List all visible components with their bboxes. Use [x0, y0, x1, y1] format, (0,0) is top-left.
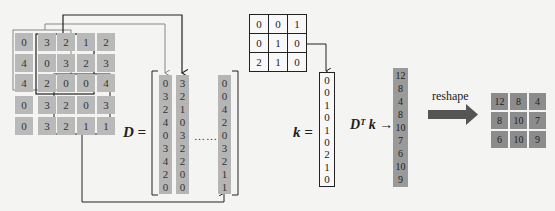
kernel-cell: 1 — [268, 33, 288, 53]
k-value: 2 — [324, 148, 330, 160]
kernel-cell: 1 — [268, 52, 288, 72]
reshape-label: reshape — [432, 89, 469, 104]
k-value: 0 — [324, 136, 330, 148]
input-cell: 4 — [15, 74, 33, 92]
result-value: 10 — [396, 121, 406, 134]
result-value: 4 — [398, 95, 403, 108]
D-value: 0 — [180, 181, 186, 194]
D-value: 1 — [180, 103, 186, 116]
input-cell: 2 — [57, 96, 75, 114]
D-value: 3 — [163, 142, 169, 155]
D-value: 0 — [222, 90, 228, 103]
k-value: 1 — [324, 99, 330, 111]
input-cell: 3 — [57, 54, 75, 72]
input-cell: 2 — [38, 74, 56, 92]
input-cell: 1 — [77, 33, 95, 51]
D-column-last: 0 0 4 2 0 3 2 1 1 — [218, 75, 231, 194]
kernel-cell: 0 — [287, 33, 307, 53]
D-column-2: 3 2 1 0 3 2 2 0 0 — [176, 75, 189, 194]
D-value: 4 — [163, 155, 169, 168]
result-value: 6 — [398, 147, 403, 160]
output-cell: 8 — [491, 112, 508, 129]
input-cell: 3 — [97, 96, 115, 114]
D-value: 2 — [163, 168, 169, 181]
D-label: D = — [123, 124, 146, 141]
input-cell: 0 — [77, 74, 95, 92]
kernel-cell: 0 — [268, 14, 288, 34]
result-value: 7 — [398, 134, 403, 147]
output-cell: 4 — [529, 93, 546, 110]
input-cell: 4 — [97, 74, 115, 92]
D-value: 1 — [222, 181, 228, 194]
kernel-cell: 0 — [249, 33, 269, 53]
reshape-arrow-icon — [428, 104, 478, 125]
input-cell: 0 — [38, 54, 56, 72]
result-vector: 12 8 4 8 10 7 6 10 9 — [393, 68, 408, 187]
D-value: 2 — [222, 116, 228, 129]
D-value: 0 — [222, 77, 228, 90]
result-value: 12 — [396, 69, 406, 82]
input-cell: 4 — [15, 54, 33, 72]
k-value: 1 — [324, 124, 330, 136]
input-cell: 2 — [57, 117, 75, 135]
D-value: 2 — [180, 142, 186, 155]
D-value: 0 — [222, 129, 228, 142]
D-value: 0 — [180, 168, 186, 181]
D-ellipsis: …… — [194, 130, 218, 142]
D-value: 2 — [180, 155, 186, 168]
k-label: k = — [293, 124, 313, 141]
output-cell: 7 — [529, 112, 546, 129]
output-cell: 6 — [491, 131, 508, 148]
input-cell: 0 — [57, 74, 75, 92]
D-value: 2 — [222, 155, 228, 168]
input-cell: 1 — [77, 117, 95, 135]
D-column-1: 0 3 2 4 0 3 4 2 0 — [159, 75, 172, 194]
output-cell: 9 — [529, 131, 546, 148]
result-value: 8 — [398, 108, 403, 121]
input-cell: 0 — [15, 33, 33, 51]
k-value: 1 — [324, 161, 330, 173]
input-cell: 3 — [38, 96, 56, 114]
input-cell: 0 — [15, 117, 33, 135]
input-cell: 3 — [97, 54, 115, 72]
D-value: 1 — [222, 168, 228, 181]
k-value: 0 — [324, 74, 330, 86]
input-cell: 0 — [77, 96, 95, 114]
input-cell: 2 — [57, 33, 75, 51]
D-value: 0 — [163, 181, 169, 194]
D-value: 3 — [180, 129, 186, 142]
output-cell: 12 — [491, 93, 508, 110]
D-value: 2 — [163, 103, 169, 116]
D-value: 3 — [180, 77, 186, 90]
result-value: 10 — [396, 160, 406, 173]
D-value: 0 — [180, 116, 186, 129]
input-cell: 1 — [97, 117, 115, 135]
k-value: 0 — [324, 173, 330, 185]
result-value: 9 — [398, 173, 403, 186]
output-cell: 10 — [510, 112, 527, 129]
D-value: 4 — [222, 103, 228, 116]
k-value: 0 — [324, 86, 330, 98]
D-value: 3 — [222, 142, 228, 155]
DTk-label: Dᵀ k → — [350, 117, 393, 133]
D-value: 0 — [163, 129, 169, 142]
k-value: 0 — [324, 111, 330, 123]
D-value: 3 — [163, 90, 169, 103]
input-cell: 3 — [38, 117, 56, 135]
input-cell: 2 — [97, 33, 115, 51]
D-value: 4 — [163, 116, 169, 129]
input-cell: 3 — [38, 33, 56, 51]
kernel-cell: 0 — [287, 52, 307, 72]
k-vector: 0 0 1 0 1 0 2 1 0 — [319, 72, 335, 187]
input-cell: 2 — [77, 54, 95, 72]
kernel-cell: 0 — [249, 14, 269, 34]
output-cell: 10 — [510, 131, 527, 148]
output-cell: 8 — [510, 93, 527, 110]
D-value: 0 — [163, 77, 169, 90]
kernel-cell: 1 — [287, 14, 307, 34]
kernel-cell: 2 — [249, 52, 269, 72]
result-value: 8 — [398, 82, 403, 95]
D-value: 2 — [180, 90, 186, 103]
input-cell: 0 — [15, 96, 33, 114]
